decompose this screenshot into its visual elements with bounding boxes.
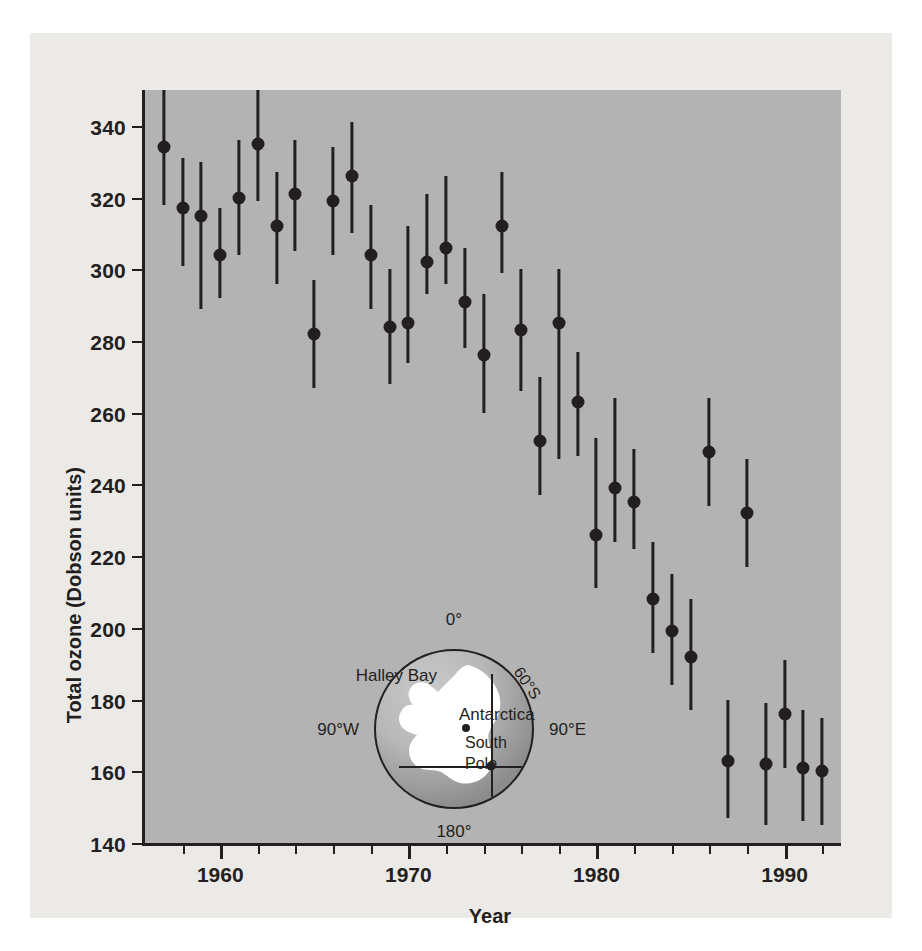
- x-tick-minor: [521, 843, 523, 854]
- error-bar: [557, 269, 560, 459]
- data-point: [496, 220, 509, 233]
- data-point: [646, 593, 659, 606]
- data-point: [684, 650, 697, 663]
- y-axis-title: Total ozone (Dobson units): [63, 467, 86, 723]
- x-tick-label: 1970: [385, 863, 432, 887]
- error-bar: [426, 194, 429, 294]
- y-tick-label: 160: [90, 761, 126, 785]
- data-point: [816, 765, 829, 778]
- y-tick: 260: [132, 413, 145, 415]
- data-point: [364, 248, 377, 261]
- x-tick-label: 1990: [761, 863, 808, 887]
- x-tick-minor: [747, 843, 749, 854]
- error-bar: [595, 438, 598, 589]
- y-tick-label: 300: [90, 259, 126, 283]
- map-label-one-eighty-degrees: 180°: [436, 822, 471, 842]
- x-tick-label: 1980: [573, 863, 620, 887]
- data-point: [515, 324, 528, 337]
- map-label-ninety-west: 90°W: [317, 720, 359, 740]
- data-point: [759, 758, 772, 771]
- error-bar: [444, 176, 447, 284]
- map-label-ninety-east: 90°E: [549, 720, 586, 740]
- y-tick: 160: [132, 771, 145, 773]
- y-tick: 320: [132, 198, 145, 200]
- halley-bay-marker: [462, 724, 470, 732]
- y-tick: 280: [132, 341, 145, 343]
- data-point: [402, 317, 415, 330]
- x-tick-minor: [295, 843, 297, 854]
- data-point: [214, 248, 227, 261]
- y-tick-label: 180: [90, 689, 126, 713]
- map-label-antarctica: Antarctica: [459, 705, 535, 725]
- error-bar: [407, 226, 410, 362]
- y-tick-label: 320: [90, 187, 126, 211]
- inset-map: 0° 180° 90°W 90°E 60°S Halley Bay Antarc…: [339, 614, 569, 844]
- x-tick-minor: [333, 843, 335, 854]
- map-label-south: South: [465, 734, 507, 752]
- x-tick-minor: [446, 843, 448, 854]
- data-point: [665, 625, 678, 638]
- y-tick: 300: [132, 269, 145, 271]
- plot-inner: 140160180200220240260280300320340 196019…: [145, 90, 841, 843]
- map-label-zero-degrees: 0°: [446, 610, 462, 630]
- y-tick-label: 240: [90, 474, 126, 498]
- data-point: [571, 395, 584, 408]
- data-point: [797, 761, 810, 774]
- plot-area: 140160180200220240260280300320340 196019…: [142, 90, 841, 846]
- data-point: [327, 195, 340, 208]
- y-tick-label: 200: [90, 617, 126, 641]
- x-tick-major: [785, 843, 788, 859]
- data-point: [195, 209, 208, 222]
- data-point: [458, 295, 471, 308]
- y-tick: 340: [132, 126, 145, 128]
- x-tick-minor: [484, 843, 486, 854]
- data-point: [421, 256, 434, 269]
- x-tick-minor: [634, 843, 636, 854]
- x-tick-minor: [183, 843, 185, 854]
- data-point: [628, 496, 641, 509]
- y-tick-label: 260: [90, 402, 126, 426]
- error-bar: [614, 398, 617, 541]
- x-tick-minor: [371, 843, 373, 854]
- map-label-pole: Pole: [465, 755, 497, 773]
- x-axis-title: Year: [142, 905, 838, 928]
- data-point: [477, 349, 490, 362]
- data-point: [740, 507, 753, 520]
- data-point: [157, 141, 170, 154]
- y-tick: 200: [132, 628, 145, 630]
- x-tick-label: 1960: [197, 863, 244, 887]
- x-tick-minor: [672, 843, 674, 854]
- data-point: [439, 241, 452, 254]
- x-tick-major: [408, 843, 411, 859]
- data-point: [270, 220, 283, 233]
- data-point: [289, 187, 302, 200]
- data-point: [251, 137, 264, 150]
- y-tick-label: 140: [90, 833, 126, 857]
- x-tick-major: [596, 843, 599, 859]
- x-tick-minor: [709, 843, 711, 854]
- data-point: [778, 707, 791, 720]
- y-tick: 240: [132, 484, 145, 486]
- data-point: [308, 327, 321, 340]
- y-tick: 220: [132, 556, 145, 558]
- data-point: [233, 191, 246, 204]
- data-point: [552, 317, 565, 330]
- map-label-halley-bay: Halley Bay: [356, 666, 437, 686]
- data-point: [345, 170, 358, 183]
- figure-panel: Total ozone (Dobson units) 1401601802002…: [30, 33, 892, 918]
- y-tick-label: 220: [90, 546, 126, 570]
- x-tick-minor: [822, 843, 824, 854]
- data-point: [176, 202, 189, 215]
- data-point: [534, 435, 547, 448]
- data-point: [703, 446, 716, 459]
- y-tick: 140: [132, 843, 145, 845]
- y-tick-label: 340: [90, 115, 126, 139]
- x-tick-major: [220, 843, 223, 859]
- data-point: [383, 320, 396, 333]
- x-tick-minor: [258, 843, 260, 854]
- data-point: [590, 528, 603, 541]
- y-tick: 180: [132, 700, 145, 702]
- x-tick-minor: [559, 843, 561, 854]
- data-point: [609, 482, 622, 495]
- data-point: [722, 754, 735, 767]
